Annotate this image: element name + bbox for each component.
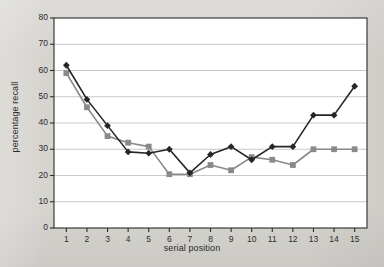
y-tick-label: 50: [22, 91, 48, 101]
y-tick-label: 60: [22, 65, 48, 75]
data-point-marker: [228, 167, 234, 173]
x-axis-title: serial position: [0, 243, 384, 253]
chart-figure: 01020304050607080 123456789101112131415 …: [0, 0, 384, 267]
y-tick-label: 80: [22, 12, 48, 22]
y-tick-label: 10: [22, 196, 48, 206]
y-tick-label: 70: [22, 38, 48, 48]
data-point-marker: [352, 146, 358, 152]
data-point-marker: [84, 104, 90, 110]
y-axis-title: percentage recall: [10, 72, 20, 162]
y-tick-label: 0: [22, 222, 48, 232]
y-tick-label: 30: [22, 143, 48, 153]
y-tick-label: 20: [22, 170, 48, 180]
data-point-marker: [166, 171, 172, 177]
y-tick-marks: [50, 18, 54, 228]
data-point-marker: [63, 70, 69, 76]
data-point-marker: [105, 133, 111, 139]
data-point-marker: [290, 162, 296, 168]
data-point-marker: [208, 162, 214, 168]
chart-plot-area: [0, 0, 384, 267]
y-tick-label: 40: [22, 117, 48, 127]
data-point-marker: [311, 146, 317, 152]
data-point-marker: [125, 140, 131, 146]
x-tick-marks: [66, 228, 354, 232]
data-point-marker: [146, 144, 152, 150]
data-point-marker: [269, 157, 275, 163]
data-point-marker: [331, 146, 337, 152]
